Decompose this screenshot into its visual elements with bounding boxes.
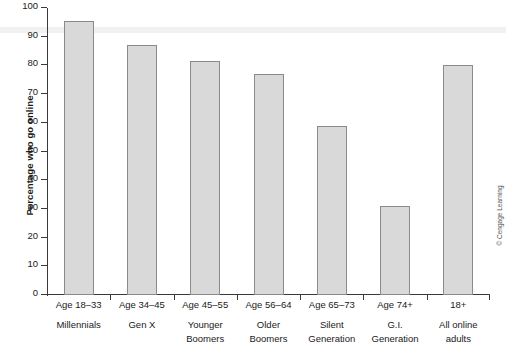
chart-figure: Percentage who go online 010203040506070… [0, 0, 506, 355]
category-age-range: 18+ [427, 298, 490, 313]
category-age-range: Age 65–73 [300, 298, 363, 313]
y-axis-tick: 90 [41, 36, 47, 37]
y-axis-tick-label: 100 [22, 0, 38, 11]
x-axis-category-label: Age 18–33Millennials [47, 298, 110, 332]
y-axis-tick-label: 50 [27, 144, 38, 155]
y-axis-tick: 40 [41, 179, 47, 180]
y-axis-tick-label: 30 [27, 201, 38, 212]
y-axis-tick-label: 40 [27, 172, 38, 183]
category-generation-name: G.I. [363, 318, 426, 333]
y-axis-tick: 0 [41, 294, 47, 295]
category-age-range: Age 18–33 [47, 298, 110, 313]
y-axis-tick-label: 90 [27, 29, 38, 40]
bar [127, 45, 157, 295]
x-axis-category-label: Age 74+G.I.Generation [363, 298, 426, 347]
bar [443, 65, 473, 295]
x-axis-category-label: Age 34–45Gen X [110, 298, 173, 332]
y-axis-tick-label: 0 [33, 287, 38, 298]
bar [380, 206, 410, 295]
y-axis-tick-label: 80 [27, 57, 38, 68]
category-generation-name-cont: Generation [300, 332, 363, 347]
x-axis-category-labels: Age 18–33MillennialsAge 34–45Gen XAge 45… [47, 298, 490, 348]
category-generation-name: Millennials [47, 318, 110, 333]
category-age-range: Age 34–45 [110, 298, 173, 313]
x-axis-category-label: Age 65–73SilentGeneration [300, 298, 363, 347]
y-axis-tick: 50 [41, 151, 47, 152]
category-age-range: Age 56–64 [237, 298, 300, 313]
y-axis-tick: 100 [41, 7, 47, 8]
y-axis-tick: 30 [41, 208, 47, 209]
y-axis-tick-label: 70 [27, 86, 38, 97]
x-axis-category-label: Age 56–64OlderBoomers [237, 298, 300, 347]
y-axis-tick-label: 20 [27, 230, 38, 241]
copyright-credit: © Cengage Learning [496, 171, 503, 261]
bar [317, 126, 347, 295]
category-generation-name: Silent [300, 318, 363, 333]
category-generation-name: Older [237, 318, 300, 333]
category-generation-name-cont: adults [427, 332, 490, 347]
category-generation-name-cont: Boomers [174, 332, 237, 347]
category-age-range: Age 74+ [363, 298, 426, 313]
plot-area: 0102030405060708090100 [47, 8, 490, 295]
y-axis-line [47, 8, 48, 296]
y-axis-tick: 10 [41, 265, 47, 266]
y-axis-tick: 60 [41, 122, 47, 123]
category-generation-name-cont: Generation [363, 332, 426, 347]
bar [254, 74, 284, 295]
category-generation-name: Younger [174, 318, 237, 333]
y-axis-tick-label: 60 [27, 115, 38, 126]
category-generation-name: Gen X [110, 318, 173, 333]
y-axis-tick: 80 [41, 64, 47, 65]
bar [64, 21, 94, 295]
category-generation-name: All online [427, 318, 490, 333]
bar [190, 61, 220, 295]
category-generation-name-cont: Boomers [237, 332, 300, 347]
x-axis-category-label: 18+All onlineadults [427, 298, 490, 347]
x-axis-category-label: Age 45–55YoungerBoomers [174, 298, 237, 347]
y-axis-tick: 70 [41, 93, 47, 94]
y-axis-tick-label: 10 [27, 258, 38, 269]
category-age-range: Age 45–55 [174, 298, 237, 313]
y-axis-tick: 20 [41, 237, 47, 238]
